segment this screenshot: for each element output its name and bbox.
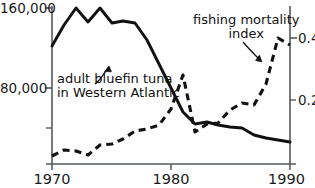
x-axis-tick-label-1970: 1970 <box>22 172 82 187</box>
mortality-annotation-arrow-line <box>243 42 260 60</box>
annotation-fishing-mortality-line-1: fishing mortality <box>193 13 299 27</box>
x-axis-tick-label-1980: 1980 <box>141 172 201 187</box>
annotation-bluefin-tuna-line-1: adult bluefin tuna <box>57 72 180 86</box>
chart-figure: 160,000 80,000 0.4 0.2 1970 1980 1990 ad… <box>0 0 315 188</box>
annotation-bluefin-tuna-line-2: in Western Atlantic <box>57 86 180 100</box>
y-axis-left-tick-label-80000: 80,000 <box>0 82 43 96</box>
y-axis-left-tick-label-160000: 160,000 <box>0 2 43 16</box>
x-axis-tick-label-1990: 1990 <box>258 172 315 187</box>
annotation-bluefin-tuna: adult bluefin tuna in Western Atlantic <box>57 72 180 100</box>
annotation-fishing-mortality: fishing mortality index <box>193 13 299 41</box>
y-axis-right-tick-label-0.4: 0.4 <box>298 32 315 46</box>
annotation-fishing-mortality-line-2: index <box>193 27 299 41</box>
y-axis-right-tick-label-0.2: 0.2 <box>298 94 315 108</box>
